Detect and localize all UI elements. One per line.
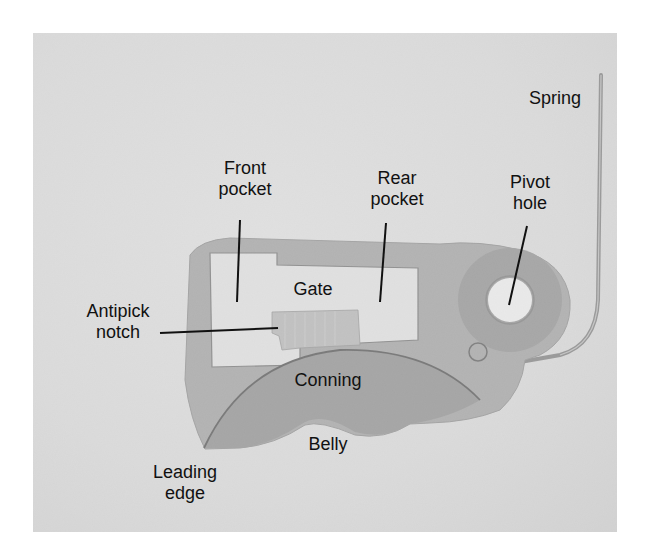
label-belly: Belly <box>293 434 363 455</box>
lever-photo: Spring Front pocket Rear pocket Pivot ho… <box>33 33 617 532</box>
label-rear-pocket: Rear pocket <box>352 168 442 210</box>
label-antipick-notch: Antipick notch <box>68 301 168 343</box>
label-gate: Gate <box>278 279 348 300</box>
label-leading-edge: Leading edge <box>135 462 235 504</box>
label-spring: Spring <box>515 88 595 109</box>
label-pivot-hole: Pivot hole <box>490 172 570 214</box>
label-conning: Conning <box>283 370 373 391</box>
label-front-pocket: Front pocket <box>200 158 290 200</box>
